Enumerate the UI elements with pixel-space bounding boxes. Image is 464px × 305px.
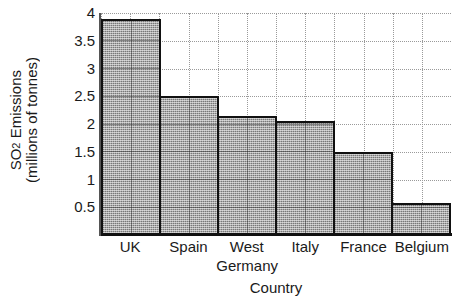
bar-gridline <box>335 207 391 208</box>
bar-inner-gridlines <box>103 21 159 233</box>
bar-gridline <box>277 151 333 152</box>
y-axis-tick-label: 1 <box>87 172 95 187</box>
bar-gridline <box>189 98 190 233</box>
y-axis-title-so: SO <box>7 148 24 170</box>
so2-emissions-bar-chart: SO2 Emissions (millions of tonnes) 43.53… <box>0 0 464 305</box>
x-axis-tick-label-line-2 <box>101 256 159 276</box>
y-axis-tick-label: 4 <box>87 5 95 20</box>
bar-inner-gridlines <box>219 118 275 233</box>
plot-area <box>101 13 451 235</box>
x-axis-tick-label-line-2 <box>336 256 394 276</box>
bar <box>391 203 451 235</box>
bar-gridline <box>219 179 275 180</box>
bar <box>159 96 219 235</box>
x-axis-tick-label-line-2 <box>278 256 336 276</box>
bar-gridline <box>131 21 132 233</box>
y-axis-title-line-1: SO2 Emissions <box>8 70 23 170</box>
bar-inner-gridlines <box>161 98 217 233</box>
bar-gridline <box>103 96 159 97</box>
bar-gridline <box>363 154 364 233</box>
bar-inner-gridlines <box>335 154 391 233</box>
bar-gridline <box>103 207 159 208</box>
y-axis-title: SO2 Emissions (millions of tonnes) <box>0 0 60 240</box>
y-axis-title-emissions: Emissions <box>7 70 24 143</box>
bar-gridline <box>421 205 422 233</box>
bar-gridline <box>161 207 217 208</box>
bar <box>217 116 277 235</box>
bar-inner-gridlines <box>393 205 449 233</box>
bar-gridline <box>103 124 159 125</box>
y-axis-title-subscript: 2 <box>10 142 22 148</box>
bar-gridline <box>103 151 159 152</box>
y-axis-tick-labels: 43.532.521.510.5 <box>54 0 98 245</box>
x-axis-title: Country <box>101 279 451 297</box>
bar-gridline <box>305 123 306 233</box>
bar-gridline <box>247 118 248 233</box>
y-axis-tick-label: 1.5 <box>74 144 95 159</box>
y-axis-title-line-2: (millions of tonnes) <box>24 57 39 183</box>
bar <box>101 19 161 235</box>
bar-gridline <box>277 207 333 208</box>
bar-gridline <box>335 179 391 180</box>
bar-gridline <box>393 207 449 208</box>
x-axis-tick-label-line-2 <box>393 256 451 276</box>
bars-container <box>101 13 451 235</box>
bar-gridline <box>219 124 275 125</box>
x-axis-tick-label-line-2: Germany <box>216 256 278 276</box>
y-axis-tick-label: 2.5 <box>74 88 95 103</box>
bar-gridline <box>161 179 217 180</box>
bar-gridline <box>161 124 217 125</box>
x-axis-tick-label-line-2 <box>159 256 217 276</box>
bar <box>275 121 335 235</box>
y-axis-tick-label: 3.5 <box>74 33 95 48</box>
bar-inner-gridlines <box>277 123 333 233</box>
bar-gridline <box>103 40 159 41</box>
bar-gridline <box>219 151 275 152</box>
bar-gridline <box>219 207 275 208</box>
y-axis-tick-label: 2 <box>87 116 95 131</box>
bar-gridline <box>103 179 159 180</box>
bar <box>333 152 393 235</box>
x-axis-tick-sublabels: Germany <box>101 256 451 276</box>
bar-gridline <box>103 68 159 69</box>
bar-gridline <box>277 179 333 180</box>
y-axis-tick-label: 3 <box>87 61 95 76</box>
bar-gridline <box>161 151 217 152</box>
y-axis-tick-label: 0.5 <box>74 199 95 214</box>
bar-gridline <box>277 124 333 125</box>
x-axis-baseline <box>101 233 452 236</box>
